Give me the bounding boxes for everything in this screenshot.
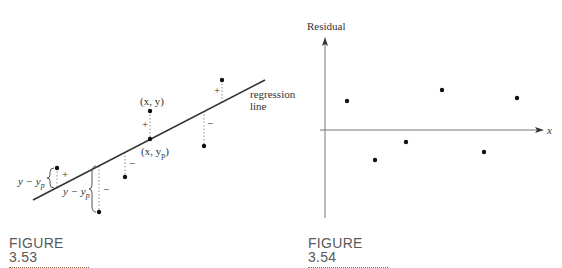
x-axis-label: x xyxy=(546,124,552,136)
minus-sign: − xyxy=(103,183,109,195)
brace-left xyxy=(47,168,54,188)
residual-points xyxy=(345,88,519,162)
data-point xyxy=(202,144,206,148)
brace-right xyxy=(89,166,96,212)
regression-line-label-1: regression xyxy=(250,88,296,100)
minus-sign: − xyxy=(129,157,135,169)
regression-line-label-2: line xyxy=(250,100,267,112)
residual-point xyxy=(373,158,377,162)
residual-point xyxy=(404,140,408,144)
residual-point xyxy=(515,96,519,100)
figure-3-53: + − − + − + (x, y) (x, yp) regression li… xyxy=(17,78,296,214)
data-point-xy xyxy=(148,109,152,113)
data-point xyxy=(55,166,59,170)
data-point xyxy=(220,78,224,82)
residual-point xyxy=(345,99,349,103)
plus-sign: + xyxy=(214,84,220,96)
label-x-yp: (x, yp) xyxy=(141,145,169,160)
y-axis-label: Residual xyxy=(307,20,346,32)
residual-label-right: y − yp xyxy=(62,185,90,200)
data-point-xyp xyxy=(148,137,152,141)
data-point xyxy=(123,175,127,179)
plus-sign: + xyxy=(62,168,68,180)
residual-label-left: y − yp xyxy=(17,175,45,190)
residual-point xyxy=(482,150,486,154)
figure-caption-3-53: FIGURE 3.53 xyxy=(9,236,89,268)
plus-sign: + xyxy=(142,118,148,130)
figure-caption-3-54: FIGURE 3.54 xyxy=(308,236,388,268)
data-point xyxy=(97,210,101,214)
label-x-y: (x, y) xyxy=(140,95,164,108)
minus-sign: − xyxy=(207,117,213,129)
figure-3-54: Residual x xyxy=(307,20,552,218)
residual-point xyxy=(440,88,444,92)
